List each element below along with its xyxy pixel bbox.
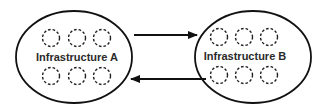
node-label-b: Infrastructure B (204, 50, 287, 62)
infrastructure-diagram: Infrastructure A Infrastructure B (0, 0, 325, 111)
node-infrastructure-a: Infrastructure A (16, 11, 132, 103)
node-label-a: Infrastructure A (36, 51, 118, 63)
node-infrastructure-b: Infrastructure B (195, 11, 311, 103)
